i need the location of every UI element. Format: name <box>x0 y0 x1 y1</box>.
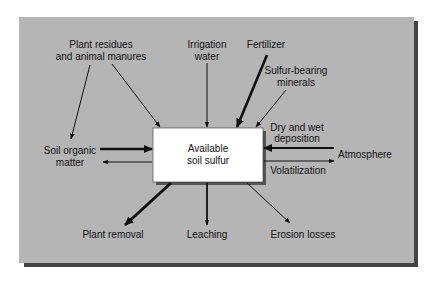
volatilization-label: Volatilization <box>270 165 326 176</box>
deposition-label-2: deposition <box>274 133 320 144</box>
sulfur-cycle-diagram: Available soil sulfur Plant residues and… <box>0 0 433 283</box>
arrow-box-to-erosion <box>247 183 290 223</box>
arrow-fertilizer-to-box <box>237 55 267 127</box>
soil-organic-matter-label-1: Soil organic <box>44 145 96 156</box>
arrow-residues-to-organic-matter <box>71 65 90 139</box>
deposition-label-1: Dry and wet <box>270 122 324 133</box>
soil-organic-matter-label-2: matter <box>56 157 85 168</box>
sulfur-minerals-label-1: Sulfur-bearing <box>265 65 328 76</box>
erosion-losses-label: Erosion losses <box>270 229 335 240</box>
leaching-label: Leaching <box>187 229 228 240</box>
plant-residues-label-2: and animal manures <box>56 51 147 62</box>
irrigation-label-1: Irrigation <box>188 39 227 50</box>
plant-residues-label-1: Plant residues <box>69 39 132 50</box>
center-box-label-2: soil sulfur <box>187 155 230 166</box>
atmosphere-label: Atmosphere <box>338 149 392 160</box>
diagram-stage: Available soil sulfur Plant residues and… <box>0 0 433 283</box>
center-box-label-1: Available <box>188 143 229 154</box>
irrigation-label-2: water <box>194 51 220 62</box>
sulfur-minerals-label-2: minerals <box>277 77 315 88</box>
plant-removal-label: Plant removal <box>82 229 143 240</box>
fertilizer-label: Fertilizer <box>247 39 286 50</box>
arrow-box-to-plant-removal <box>125 183 171 225</box>
arrow-residues-to-box <box>112 64 160 127</box>
